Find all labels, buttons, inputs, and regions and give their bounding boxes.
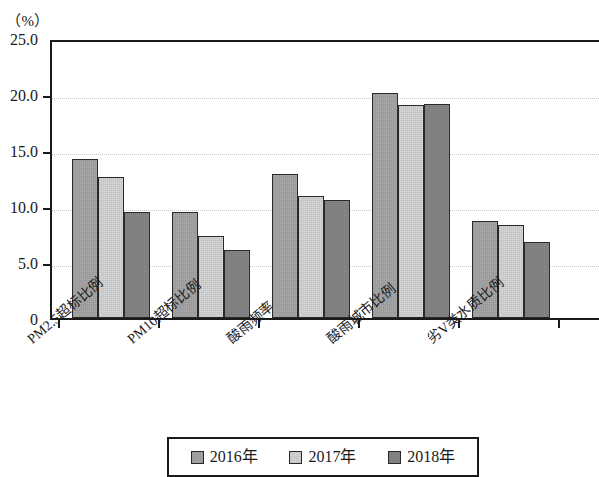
- gridline: [52, 154, 599, 155]
- legend-item: 2017年: [289, 449, 356, 465]
- y-axis-tick-label: 25.0: [10, 32, 38, 48]
- bar: [498, 225, 524, 318]
- bar: [424, 104, 450, 318]
- x-axis-tick: [558, 320, 560, 328]
- bar: [398, 105, 424, 318]
- legend-item: 2018年: [388, 449, 455, 465]
- bar: [298, 196, 324, 318]
- y-axis-tick-label: 10.0: [10, 200, 38, 216]
- legend-item-label: 2017年: [308, 449, 356, 465]
- bar: [272, 174, 298, 318]
- y-axis-unit-label: （%）: [6, 9, 50, 30]
- y-axis-tick: [43, 208, 50, 210]
- bar: [98, 177, 124, 318]
- legend-item-label: 2018年: [407, 449, 455, 465]
- chart-legend: 2016年2017年2018年: [167, 437, 479, 477]
- bar: [198, 236, 224, 318]
- gridline: [52, 98, 599, 99]
- bar: [524, 242, 550, 318]
- bar: [324, 200, 350, 318]
- bar: [124, 212, 150, 318]
- y-axis-tick: [43, 264, 50, 266]
- y-axis-tick-label: 5.0: [18, 256, 38, 272]
- plot-area: [50, 40, 599, 320]
- bar: [224, 250, 250, 318]
- y-axis-tick-label: 20.0: [10, 88, 38, 104]
- y-axis-tick: [43, 152, 50, 154]
- legend-swatch-icon: [289, 451, 302, 464]
- legend-swatch-icon: [388, 451, 401, 464]
- y-axis-tick: [43, 96, 50, 98]
- legend-swatch-icon: [191, 451, 204, 464]
- legend-item-label: 2016年: [210, 449, 258, 465]
- legend-item: 2016年: [191, 449, 258, 465]
- y-axis-tick-label: 15.0: [10, 144, 38, 160]
